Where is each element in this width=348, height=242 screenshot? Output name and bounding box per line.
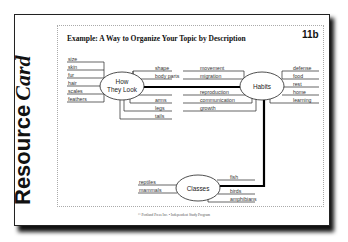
leaf-label: feathers	[68, 96, 87, 102]
leaf-label: birds	[230, 188, 242, 194]
leaf-label: communication	[200, 97, 235, 103]
leaf-label: movement	[200, 65, 225, 71]
leaf-label: growth	[200, 105, 216, 111]
leaf-label: hair	[68, 80, 77, 86]
leaf-label: food	[293, 73, 303, 79]
leaf-label: defense	[293, 65, 312, 71]
leaf-label: mammals	[139, 187, 162, 193]
leaf-label: learning	[293, 97, 312, 103]
concept-map: How They Look Habits Classes size skin f…	[0, 0, 348, 242]
leaf-label: fish	[230, 174, 238, 180]
leaf-label: migration	[200, 73, 221, 79]
node-label-classes: Classes	[187, 185, 210, 192]
leaf-label: skin	[68, 64, 77, 70]
node-label-they-look: They Look	[107, 86, 138, 94]
leaf-label: body parts	[155, 73, 180, 79]
leaf-label: fur	[68, 72, 74, 78]
leaf-label: scales	[68, 88, 83, 94]
leaf-label: rest	[293, 81, 302, 87]
leaf-label: arms	[155, 97, 167, 103]
node-label-habits: Habits	[253, 83, 271, 90]
leaf-label: reproduction	[200, 89, 229, 95]
node-label-how: How	[116, 78, 129, 85]
leaf-label: tails	[155, 113, 165, 119]
leaf-label: reptiles	[139, 179, 156, 185]
leaf-label: home	[293, 89, 306, 95]
card-footer: © Portland Press Inc. • Independent Stud…	[0, 213, 348, 217]
leaf-label: size	[68, 56, 77, 62]
leaf-label: legs	[155, 105, 165, 111]
leaf-label: shape	[155, 65, 169, 71]
leaf-label: amphibians	[230, 196, 257, 202]
